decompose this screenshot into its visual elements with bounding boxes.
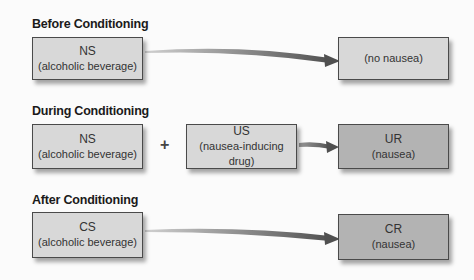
response-box-before: (no nausea) (338, 37, 449, 80)
box-abbr: NS (79, 132, 96, 147)
ns-box-during: NS (alcoholic beverage) (32, 124, 143, 169)
plus-operator: + (160, 136, 169, 154)
us-box-during: US (nausea-inducing drug) (186, 124, 297, 169)
box-label: (nausea-inducing drug) (187, 139, 296, 169)
box-abbr: CR (385, 222, 402, 237)
arrow-during (299, 141, 339, 153)
arrow-after (145, 229, 340, 245)
box-abbr: US (233, 124, 250, 139)
box-label: (no nausea) (364, 51, 423, 66)
box-label: (alcoholic beverage) (38, 235, 137, 250)
section-title-before: Before Conditioning (32, 17, 148, 31)
ns-box-before: NS (alcoholic beverage) (32, 37, 143, 80)
box-label: (alcoholic beverage) (38, 59, 137, 74)
box-label: (alcoholic beverage) (38, 147, 137, 162)
box-abbr: UR (385, 132, 402, 147)
section-title-after: After Conditioning (32, 193, 138, 207)
arrow-before (145, 49, 340, 67)
cr-box-after: CR (nausea) (338, 214, 449, 260)
box-label: (nausea) (372, 237, 415, 252)
box-abbr: CS (79, 220, 96, 235)
box-label: (nausea) (372, 147, 415, 162)
section-title-during: During Conditioning (32, 104, 149, 118)
cs-box-after: CS (alcoholic beverage) (32, 212, 143, 258)
box-abbr: NS (79, 44, 96, 59)
ur-box-during: UR (nausea) (338, 124, 449, 169)
